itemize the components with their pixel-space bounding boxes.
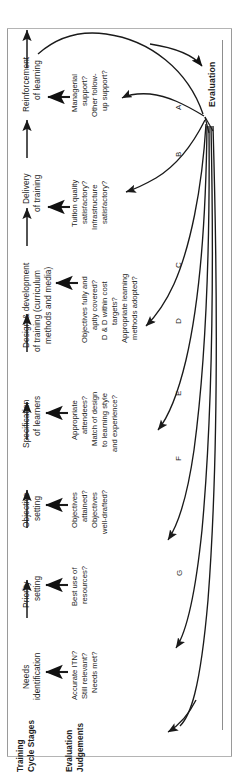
judgement-delivery-1: Tuition quality: [71, 180, 80, 227]
judgement-needs-2: Still relevant?: [81, 653, 90, 699]
judgement-objective-4: well-drafted?: [101, 490, 110, 534]
stage-label-priority-setting-2: setting: [33, 576, 43, 601]
curve-label-B: B: [174, 152, 183, 157]
curve-G: [180, 126, 216, 726]
stage-line: identification: [33, 652, 43, 700]
evaluation-feedback-curves: [38, 33, 216, 732]
stage-label-design-development: Design & development: [22, 263, 32, 348]
stage-label-design-development-3: methods and media): [44, 267, 54, 344]
row-header-evaluation-judgements-line2: Judgements: [76, 723, 86, 772]
judgement-specification-2: attendees?: [81, 396, 90, 434]
stage-label-design-development-2: of training (curriculum: [33, 270, 43, 352]
judgement-reinforcement-2: support?: [81, 76, 90, 106]
curve-B: [126, 120, 205, 192]
stage-label-needs-identification: Needs: [22, 665, 32, 689]
judgement-design-5: Appropriate learning: [121, 274, 130, 343]
judgement-objective-2: attained?: [81, 490, 90, 522]
loop-into-evaluation: [150, 44, 202, 66]
judgement-reinforcement-1: Managerial: [71, 74, 80, 112]
stage-line: Reinforcement: [22, 57, 32, 112]
row-header-training-cycle-stages-line2: Cycle Stages: [27, 720, 37, 772]
stage-label-delivery-of-training: Delivery: [22, 173, 32, 204]
figure-canvas: Reinforcement of learning Delivery of tr…: [0, 0, 240, 781]
judgement-reinforcement-3: Other follow-: [91, 73, 100, 117]
judgement-specification-3: Match of design: [91, 392, 100, 446]
judgement-needs-3: Needs met?: [91, 652, 100, 693]
judgement-objective-1: Objectives: [71, 492, 80, 528]
judgement-design-4: targets?: [111, 297, 120, 325]
stage-label-needs-identification-2: identification: [33, 652, 43, 700]
stage-line: of training (curriculum: [33, 270, 43, 352]
stage-label-objective-setting-2: setting: [33, 496, 43, 521]
stage-line: Needs: [22, 665, 32, 689]
stage-label-objective-setting: Objective: [22, 493, 32, 529]
curve-label-E: E: [174, 391, 183, 396]
curve-label-D: D: [174, 318, 183, 324]
stage-label-reinforcement-of-learning: Reinforcement: [22, 57, 32, 112]
stage-label-reinforcement-of-learning-2: of learning: [33, 60, 43, 100]
judgement-design-2: aptly covered?: [91, 280, 100, 330]
stage-line: of training: [33, 174, 43, 212]
curve-E: [168, 126, 209, 540]
judgement-reinforcement-4: up support?: [101, 70, 110, 111]
curve-label-A: A: [174, 105, 183, 110]
stage-line: Priority: [22, 581, 32, 608]
stage-line: Delivery: [22, 173, 32, 204]
row-header-training-cycle-stages-line1: Training: [16, 739, 26, 772]
stage-label-delivery-of-training-2: of training: [33, 174, 43, 212]
stage-label-priority-setting: Priority: [22, 581, 32, 608]
row-header-evaluation-judgements-line1: Evaluation: [65, 730, 75, 772]
curve-A: [122, 94, 204, 116]
curve-label-C: C: [174, 262, 183, 268]
judgement-design-3: D & D within cost: [101, 281, 110, 340]
judgement-needs-1: Accurate ITN?: [71, 651, 80, 700]
judgement-design-1: Objectives fully and: [81, 276, 90, 343]
judgement-priority-2: resources?: [81, 566, 90, 604]
judgement-delivery-4: satisfactory?: [101, 181, 110, 224]
stage-label-specification-of-learners-2: of learners: [33, 396, 43, 436]
judgement-specification-1: Appropriate: [71, 400, 80, 440]
stage-line: Specification: [22, 400, 32, 448]
judgement-specification-4: to learning style: [101, 393, 110, 447]
judgement-priority-1: Best use of: [71, 567, 80, 606]
stage-line: Objective: [22, 493, 32, 529]
stage-line: setting: [33, 496, 43, 521]
judgement-delivery-2: satisfactory?: [81, 181, 90, 224]
judgement-design-6: methods adopted?: [131, 276, 140, 340]
curve-label-G: G: [175, 570, 184, 576]
curve-label-F: F: [174, 456, 183, 461]
evaluation-node-label: Evaluation: [207, 62, 217, 107]
stage-line: methods and media): [44, 267, 54, 344]
judgement-objective-3: Objectives: [91, 492, 100, 528]
stage-line: setting: [33, 576, 43, 601]
stage-line: Design & development: [22, 263, 32, 348]
stage-line: of learning: [33, 60, 43, 100]
stage-line: of learners: [33, 396, 43, 436]
stage-label-specification-of-learners: Specification: [22, 400, 32, 448]
judgement-delivery-3: Infrastructure: [91, 185, 100, 230]
judgement-specification-5: and experience?: [111, 395, 120, 452]
